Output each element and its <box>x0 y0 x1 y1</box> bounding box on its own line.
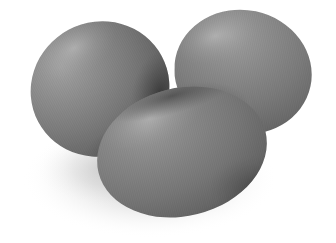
eggs-illustration <box>0 0 336 243</box>
image-canvas: Three eggs Three grayscale eggs resting … <box>0 0 336 243</box>
